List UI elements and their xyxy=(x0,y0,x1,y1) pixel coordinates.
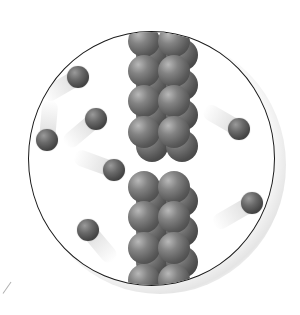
diffusing-particle xyxy=(77,219,99,241)
wall-atom xyxy=(158,55,190,87)
diffusing-particle xyxy=(228,118,250,140)
wall-atom xyxy=(158,171,190,203)
wall-atom xyxy=(128,201,160,233)
diffusion-illustration xyxy=(0,0,300,315)
diffusing-particle xyxy=(241,192,263,214)
wall-atom xyxy=(128,171,160,203)
wall-atom xyxy=(128,232,160,264)
diffusing-particle xyxy=(103,159,125,181)
wall-atom xyxy=(128,85,160,117)
diffusing-particle xyxy=(67,66,89,88)
diffusing-particle xyxy=(36,129,58,151)
magnified-lens-circle xyxy=(28,31,275,286)
stray-pen-mark xyxy=(3,282,12,294)
wall-atom xyxy=(158,116,190,148)
diffusing-particle xyxy=(85,108,107,130)
wall-atom xyxy=(128,55,160,87)
wall-atom xyxy=(158,232,190,264)
wall-atom xyxy=(158,201,190,233)
wall-atom xyxy=(128,116,160,148)
wall-atom xyxy=(158,85,190,117)
